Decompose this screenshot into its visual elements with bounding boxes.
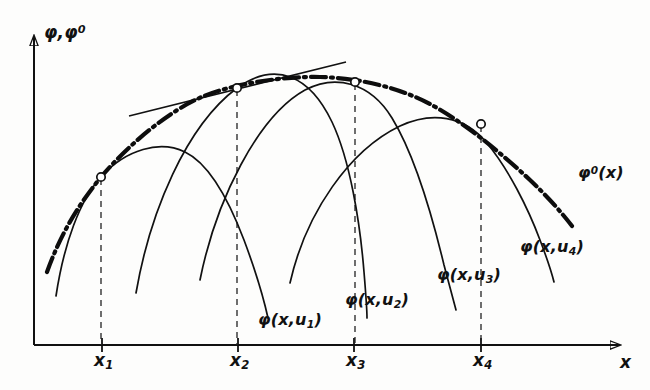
curve-phi-u3: [200, 82, 456, 310]
curve-label-curve-phi-u4: φ(x,u4): [520, 237, 584, 258]
tangency-point-x2: [233, 84, 241, 92]
curve-label-curve-phi-u1: φ(x,u1): [258, 310, 322, 331]
curve-phi-u2: [136, 74, 367, 318]
tangency-point-x4: [477, 120, 485, 128]
tick-label-x3: x3: [346, 350, 365, 372]
envelope-curve: [47, 77, 572, 272]
tangency-point-x1: [97, 173, 105, 181]
x-axis-label: x: [620, 352, 631, 372]
tick-label-x1: x1: [94, 350, 113, 372]
envelope-group: [47, 77, 572, 272]
curve-label-curve-phi-u3: φ(x,u3): [437, 265, 501, 286]
envelope-label: φ0(x): [578, 163, 624, 182]
tangency-markers: [97, 78, 485, 181]
tick-label-x2: x2: [230, 350, 249, 372]
tangency-point-x3: [351, 78, 359, 86]
y-axis-label: φ,φ0: [44, 22, 86, 42]
figure-canvas: [0, 0, 650, 390]
curve-phi-u4: [290, 118, 554, 283]
curve-label-curve-phi-u2: φ(x,u2): [345, 290, 409, 311]
tick-label-x4: x4: [473, 350, 492, 372]
